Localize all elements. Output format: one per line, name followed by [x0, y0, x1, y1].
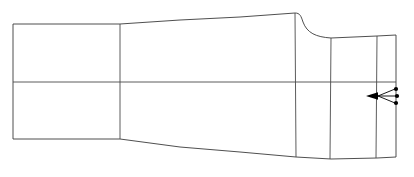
node-dot-middle	[395, 94, 399, 98]
node-dot-upper	[394, 87, 398, 91]
node-dot-lower	[394, 101, 398, 105]
leader-line-upper	[378, 89, 395, 96]
leader-line-lower	[378, 96, 395, 103]
leader-arrow-head-icon	[366, 92, 378, 99]
station-line-3	[330, 38, 331, 159]
station-line-2	[295, 13, 296, 157]
drawing-canvas	[0, 0, 414, 177]
body-outline-path	[13, 13, 396, 159]
wireframe-svg	[0, 0, 414, 177]
